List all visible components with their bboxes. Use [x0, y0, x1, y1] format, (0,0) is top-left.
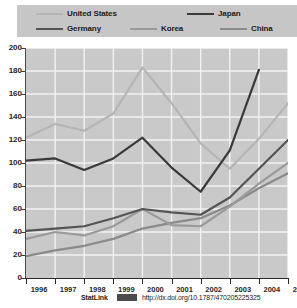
y-axis-tick-label: 100	[9, 159, 22, 167]
y-axis-tick-label: 180	[9, 67, 22, 75]
x-axis-tick	[201, 279, 202, 284]
legend-label-china: China	[251, 24, 273, 33]
x-axis-tick	[142, 279, 143, 284]
x-axis-tick	[288, 279, 289, 284]
plot-svg	[26, 48, 288, 278]
legend-item-united-states: United States	[36, 6, 117, 21]
x-axis-tick	[113, 279, 114, 284]
legend-label-germany: Germany	[67, 24, 101, 33]
chart-figure: United States Japan Germany Korea China	[0, 0, 297, 308]
legend-label-korea: Korea	[161, 24, 183, 33]
legend-item-korea: Korea	[130, 21, 183, 36]
legend-item-germany: Germany	[36, 21, 101, 36]
x-axis-tick	[84, 279, 85, 284]
chart-area: 020406080100120140160180200 199619971998…	[0, 39, 297, 289]
y-axis-tick-label: 200	[9, 44, 22, 52]
plot-region	[26, 48, 288, 278]
statlink-label: StatLink	[81, 293, 108, 302]
legend-item-china: China	[220, 21, 273, 36]
y-axis-tick-label: 120	[9, 136, 22, 144]
legend-row-2: Germany Korea China	[17, 21, 297, 36]
legend-swatch-united-states	[36, 13, 63, 15]
legend-swatch-china	[220, 28, 247, 30]
x-axis-line	[25, 278, 289, 279]
y-axis-tick-label: 140	[9, 113, 22, 121]
chart-legend: United States Japan Germany Korea China	[17, 5, 297, 37]
statlink-url[interactable]: http://dx.doi.org/10.1787/470205225325	[142, 293, 260, 302]
legend-label-united-states: United States	[67, 9, 117, 18]
legend-item-japan: Japan	[187, 6, 241, 21]
figure-footer: StatLink http://dx.doi.org/10.1787/47020…	[0, 292, 297, 308]
y-axis-tick-label: 160	[9, 90, 22, 98]
legend-label-japan: Japan	[218, 9, 241, 18]
x-axis-tick	[259, 279, 260, 284]
x-axis-tick	[26, 279, 27, 284]
x-axis-tick	[172, 279, 173, 284]
legend-swatch-japan	[187, 13, 214, 15]
legend-row-1: United States Japan	[17, 6, 297, 21]
x-axis-tick	[230, 279, 231, 284]
statlink-badge-icon	[117, 294, 137, 301]
legend-swatch-korea	[130, 28, 157, 30]
x-axis-tick	[55, 279, 56, 284]
y-axis-labels: 020406080100120140160180200	[0, 39, 24, 289]
legend-swatch-germany	[36, 28, 63, 30]
